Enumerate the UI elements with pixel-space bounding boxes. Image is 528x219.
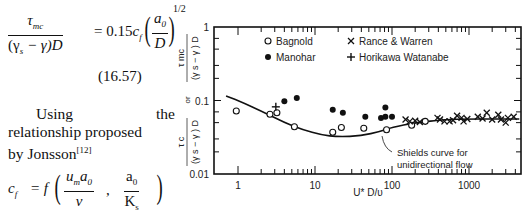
legend-label: Manohar bbox=[276, 52, 316, 63]
text-column: τmc (γs − γ)D = 0.15cf ( a0 D ) 1/2 (16.… bbox=[0, 0, 180, 219]
svg-text:or: or bbox=[183, 96, 192, 103]
data-point-rance-warren bbox=[484, 110, 490, 116]
paragraph: Usingthe relationship proposed by Jonsso… bbox=[8, 105, 175, 163]
data-point-manohar bbox=[330, 107, 336, 113]
legend-label: Horikawa Watanabe bbox=[359, 52, 449, 63]
equation-lhs-fraction: τmc (γs − γ)D bbox=[8, 12, 63, 60]
data-point-manohar bbox=[340, 110, 346, 116]
data-point-manohar bbox=[362, 114, 368, 120]
data-point-bagnold bbox=[291, 124, 297, 130]
data-point-bagnold bbox=[330, 129, 336, 135]
data-point-bagnold bbox=[338, 124, 344, 130]
y-tick-label: 0.01 bbox=[190, 169, 210, 180]
svg-text:Shields curve for: Shields curve for bbox=[397, 147, 468, 158]
svg-text:unidirectional flow: unidirectional flow bbox=[397, 159, 473, 170]
citation: [12] bbox=[76, 145, 91, 155]
x-tick-label: 10 bbox=[309, 180, 321, 191]
x-tick-label: 1 bbox=[235, 180, 241, 191]
shields-annotation: Shields curve forunidirectional flow bbox=[382, 136, 473, 170]
legend-marker-open-circle bbox=[265, 38, 271, 44]
x-tick-label: 100 bbox=[384, 180, 401, 191]
equation-cf: cf = f ( uma0 ν , a0 Ks ) bbox=[8, 162, 178, 212]
y-tick-label: 1 bbox=[203, 22, 209, 33]
x-axis-title: U* D/υ bbox=[353, 187, 382, 198]
plot-frame bbox=[214, 27, 521, 174]
svg-text:τ mc: τ mc bbox=[176, 48, 186, 67]
chart-canvas: τ mc(γ s − γ ) Dorτ c(γ s − γ ) D 110100… bbox=[160, 0, 528, 219]
svg-text:(γ s − γ ) D: (γ s − γ ) D bbox=[190, 36, 200, 80]
equation-rhs-coefficient: = 0.15cf bbox=[94, 23, 142, 42]
data-point-manohar bbox=[281, 98, 287, 104]
x-tick-label: 1000 bbox=[458, 180, 481, 191]
data-point-bagnold bbox=[267, 111, 273, 117]
legend-marker-plus bbox=[347, 53, 355, 61]
data-point-manohar bbox=[389, 114, 395, 120]
svg-text:τ c: τ c bbox=[176, 136, 186, 147]
data-point-bagnold bbox=[233, 108, 239, 114]
data-point-manohar bbox=[294, 95, 300, 101]
data-point-horikawa-watanabe bbox=[272, 103, 280, 111]
legend-label: Rance & Warren bbox=[359, 36, 433, 47]
plot-border bbox=[214, 27, 521, 174]
legend-marker-filled-circle bbox=[265, 54, 271, 60]
equation-number: (16.57) bbox=[98, 68, 142, 85]
data-point-bagnold bbox=[274, 110, 280, 116]
legend-marker-x bbox=[348, 38, 354, 44]
legend-label: Bagnold bbox=[276, 36, 313, 47]
shields-chart: τ mc(γ s − γ ) Dorτ c(γ s − γ ) D 110100… bbox=[160, 0, 528, 219]
svg-text:(γ s − γ ) D: (γ s − γ ) D bbox=[190, 120, 200, 164]
equation-arg1-fraction: uma0 ν bbox=[64, 168, 94, 210]
data-point-manohar bbox=[382, 105, 388, 111]
equation-arg2-fraction: a0 Ks bbox=[124, 168, 139, 216]
data-point-bagnold bbox=[384, 127, 390, 133]
equation-16-57: τmc (γs − γ)D = 0.15cf ( a0 D ) 1/2 bbox=[8, 6, 178, 54]
data-points bbox=[233, 95, 516, 135]
data-point-bagnold bbox=[361, 125, 367, 131]
legend: BagnoldManoharRance & WarrenHorikawa Wat… bbox=[265, 36, 449, 63]
x-axis-label: U* D/υ bbox=[353, 187, 382, 198]
data-point-manohar bbox=[382, 114, 388, 120]
y-tick-label: 0.1 bbox=[195, 96, 209, 107]
